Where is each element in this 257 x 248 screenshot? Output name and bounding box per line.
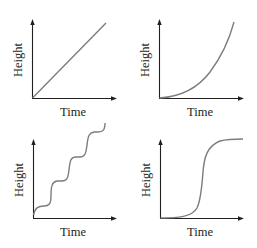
x-axis-label: Time [60,105,86,119]
y-axis-label: Height [12,162,26,197]
y-axis-label: Height [11,42,25,77]
x-axis-label: Time [60,225,86,239]
exponential-curve [160,22,235,98]
panel-accelerating: Time Height [138,19,244,119]
y-axis-label: Height [138,42,152,77]
x-axis-label: Time [187,225,213,239]
x-axis-arrow-icon [238,216,244,220]
panel-stepwise: Time Height [12,123,117,239]
staircase-curve [34,123,106,215]
x-axis-arrow-icon [238,96,244,100]
x-axis-arrow-icon [111,216,117,220]
y-axis-arrow-icon [158,139,162,145]
x-axis-arrow-icon [111,96,117,100]
y-axis-arrow-icon [30,19,34,25]
growth-curves-diagram: Time Height Time Height Time Height Time… [0,0,257,248]
panel-linear: Time Height [11,19,117,119]
linear-curve [33,23,107,98]
x-axis-label: Time [187,105,213,119]
sigmoid-curve [161,139,244,218]
panel-sigmoid: Time Height [139,139,244,239]
y-axis-arrow-icon [31,139,35,145]
y-axis-label: Height [139,162,153,197]
y-axis-arrow-icon [157,19,161,25]
